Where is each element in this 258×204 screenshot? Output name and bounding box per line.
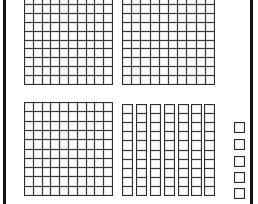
unit-cell [132,5,140,13]
unit-cell [34,112,42,120]
unit-cell [69,168,77,176]
unit-cell [87,168,95,176]
unit-cell [60,168,68,176]
unit-cell [34,103,42,111]
unit-cell [43,122,51,130]
unit-cell [197,49,205,57]
ten-rod[interactable] [150,104,161,196]
ten-rod[interactable] [191,104,202,196]
unit-cell [169,49,177,57]
unit-cell [95,159,103,167]
ten-rod[interactable] [122,104,133,196]
unit-cell [78,150,86,158]
unit-cube[interactable] [234,188,245,199]
unit-cell [51,67,59,75]
unit-cell [178,14,186,22]
unit-cell [169,58,177,66]
unit-cell [34,150,42,158]
unit-cell [34,187,42,195]
unit-cell [137,141,146,149]
unit-cell [43,32,51,40]
unit-cell [25,23,33,31]
unit-cube[interactable] [234,156,245,167]
unit-cell [160,76,168,84]
unit-cell [25,131,33,139]
unit-cell [123,105,132,113]
unit-cell [197,32,205,40]
unit-cell [51,23,59,31]
unit-cube[interactable] [234,172,245,183]
unit-cell [78,168,86,176]
unit-cell [60,67,68,75]
unit-cell [51,159,59,167]
unit-cell [43,131,51,139]
unit-cell [132,67,140,75]
unit-cell [34,168,42,176]
unit-cell [165,151,174,159]
unit-cell [179,141,188,149]
page-rule-right [250,0,253,204]
unit-cell [95,103,103,111]
ten-rod[interactable] [204,104,215,196]
unit-cell [178,23,186,31]
unit-cell [123,160,132,168]
unit-cell [25,14,33,22]
unit-cell [235,140,244,149]
unit-cube[interactable] [234,122,245,133]
unit-cell [187,0,195,4]
hundred-flat[interactable] [24,0,113,85]
hundred-flat[interactable] [122,0,215,85]
unit-cell [104,67,112,75]
unit-cell [141,0,149,4]
unit-cell [25,41,33,49]
unit-cell [69,150,77,158]
unit-cube[interactable] [234,139,245,150]
unit-cell [205,123,214,131]
unit-cell [95,150,103,158]
unit-cell [69,67,77,75]
unit-cell [43,177,51,185]
unit-cell [141,76,149,84]
unit-cell [43,112,51,120]
unit-cell [25,168,33,176]
unit-cell [43,187,51,195]
unit-cell [87,58,95,66]
unit-cell [43,67,51,75]
unit-cell [151,5,159,13]
unit-cell [34,67,42,75]
hundred-flat[interactable] [24,102,113,196]
unit-cell [69,187,77,195]
unit-cell [123,41,131,49]
unit-cell [165,114,174,122]
unit-cell [43,23,51,31]
unit-cell [34,41,42,49]
unit-cell [178,0,186,4]
unit-cell [169,41,177,49]
unit-cell [179,187,188,195]
unit-cell [78,140,86,148]
unit-cell [51,150,59,158]
unit-cell [34,140,42,148]
unit-cell [141,23,149,31]
unit-cell [95,32,103,40]
ten-rod[interactable] [164,104,175,196]
unit-cell [151,23,159,31]
ten-rod[interactable] [178,104,189,196]
unit-cell [51,58,59,66]
unit-cell [192,160,201,168]
unit-cell [165,105,174,113]
unit-cell [51,122,59,130]
unit-cell [165,132,174,140]
ten-rod[interactable] [136,104,147,196]
unit-cell [69,112,77,120]
unit-cell [25,140,33,148]
unit-cell [43,0,51,4]
unit-cell [34,0,42,4]
unit-cell [104,168,112,176]
unit-cell [51,140,59,148]
unit-cell [78,187,86,195]
unit-cell [235,173,244,182]
unit-cell [137,132,146,140]
unit-cell [165,160,174,168]
unit-cell [192,178,201,186]
